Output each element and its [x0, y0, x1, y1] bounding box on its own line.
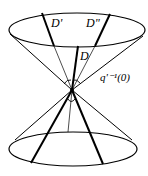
lower-cone-rim: [9, 132, 137, 166]
line-d-prime-lower: [31, 90, 72, 163]
upper-cone-left-edge: [10, 34, 72, 90]
upper-cone-rim: [9, 13, 145, 47]
label-d-double-prime: D": [85, 16, 101, 30]
line-d-prime-hidden: [54, 46, 72, 90]
line-d: [72, 46, 78, 90]
label-fiber: q'⁻¹(0): [100, 71, 130, 84]
apex-point: [70, 88, 74, 92]
label-d-prime: D': [50, 16, 63, 30]
angle-arc-lower: [68, 99, 75, 102]
label-d: D: [79, 49, 89, 63]
line-d-double-prime-lower: [72, 90, 103, 164]
double-cone-diagram: D' D" D q'⁻¹(0): [0, 0, 148, 176]
